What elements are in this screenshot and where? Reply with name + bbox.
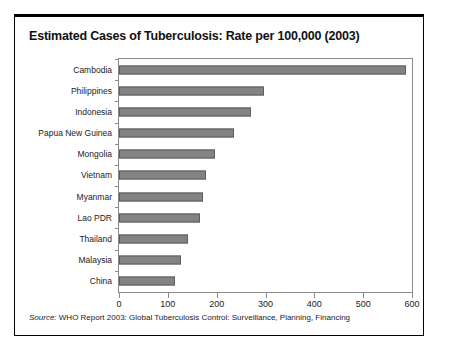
y-tick-label: Malaysia [78, 255, 112, 265]
y-tick-mark [115, 165, 119, 166]
y-tick-mark [115, 228, 119, 229]
bar-row: Thailand [119, 228, 412, 249]
x-tick-mark [217, 293, 218, 298]
source-text: WHO Report 2003: Global Tuberculosis Con… [57, 313, 350, 322]
x-tick-mark [412, 293, 413, 298]
y-tick-label: Myanmar [77, 192, 112, 202]
x-tick-label: 400 [307, 299, 322, 309]
bar [119, 86, 264, 95]
bar [119, 234, 188, 243]
y-tick-mark [115, 271, 119, 272]
y-tick-label: China [90, 276, 112, 286]
bar-row: Cambodia [119, 59, 412, 80]
x-tick-mark [119, 293, 120, 298]
bar-row: Lao PDR [119, 207, 412, 228]
y-tick-mark [115, 250, 119, 251]
source-prefix: Source: [29, 313, 57, 322]
y-tick-label: Cambodia [73, 65, 112, 75]
plot-area: CambodiaPhilippinesIndonesiaPapua New Gu… [119, 59, 412, 292]
chart-title: Estimated Cases of Tuberculosis: Rate pe… [29, 29, 359, 43]
bar [119, 150, 215, 159]
bar [119, 256, 181, 265]
chart-figure: Estimated Cases of Tuberculosis: Rate pe… [14, 14, 424, 336]
bar-row: Indonesia [119, 101, 412, 122]
bar [119, 107, 251, 116]
x-tick-mark [168, 293, 169, 298]
y-tick-label: Thailand [79, 234, 112, 244]
x-tick-label: 300 [258, 299, 273, 309]
bar-row: Philippines [119, 80, 412, 101]
y-tick-label: Mongolia [78, 149, 113, 159]
y-tick-label: Indonesia [75, 107, 112, 117]
y-tick-label: Vietnam [81, 170, 112, 180]
y-tick-mark [115, 80, 119, 81]
bar [119, 213, 200, 222]
bar-row: China [119, 271, 412, 292]
bar [119, 277, 175, 286]
y-tick-label: Philippines [71, 86, 112, 96]
x-tick-label: 600 [404, 299, 419, 309]
y-tick-label: Papua New Guinea [38, 128, 112, 138]
x-tick-label: 100 [160, 299, 175, 309]
y-tick-label: Lao PDR [78, 213, 113, 223]
x-axis: 0100200300400500600 [119, 292, 412, 293]
bar [119, 65, 406, 74]
bar [119, 171, 206, 180]
y-tick-mark [115, 101, 119, 102]
x-tick-label: 200 [209, 299, 224, 309]
bar-row: Myanmar [119, 186, 412, 207]
x-tick-label: 0 [116, 299, 121, 309]
y-tick-mark [115, 144, 119, 145]
bar [119, 129, 234, 138]
x-tick-mark [363, 293, 364, 298]
bar-row: Malaysia [119, 250, 412, 271]
x-tick-mark [314, 293, 315, 298]
bar [119, 192, 203, 201]
x-tick-label: 500 [356, 299, 371, 309]
y-tick-mark [115, 59, 119, 60]
y-tick-mark [115, 186, 119, 187]
x-tick-mark [266, 293, 267, 298]
source-note: Source: WHO Report 2003: Global Tubercul… [29, 313, 350, 322]
y-tick-mark [115, 207, 119, 208]
y-tick-mark [115, 123, 119, 124]
bar-row: Mongolia [119, 144, 412, 165]
bar-row: Vietnam [119, 165, 412, 186]
bar-row: Papua New Guinea [119, 123, 412, 144]
